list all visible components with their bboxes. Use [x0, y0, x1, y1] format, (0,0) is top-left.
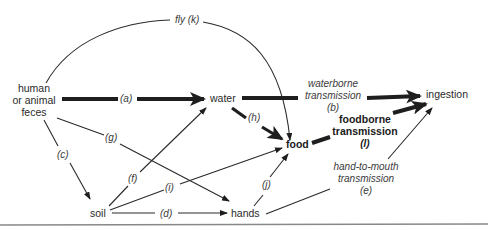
edge-l-left	[312, 137, 330, 143]
edge-k-arc-left	[46, 20, 170, 83]
edge-j-bottom	[254, 195, 263, 206]
edge-c-bottom	[70, 163, 90, 199]
edge-b-label-line1: waterborne	[308, 78, 358, 89]
edge-e-bottom	[266, 189, 330, 214]
edge-a-label: (a)	[120, 93, 132, 104]
node-feces-line3: feces	[21, 106, 46, 118]
edge-l-label-line2: transmission	[332, 125, 397, 137]
edge-f-bottom	[109, 186, 128, 206]
edge-e-label-line2: transmission	[338, 173, 395, 184]
bottom-rule	[0, 224, 488, 225]
edge-f-label: (f)	[128, 173, 137, 184]
node-food: food	[286, 138, 309, 150]
node-ingestion: ingestion	[426, 88, 468, 100]
edge-k-label: fly (k)	[175, 14, 199, 25]
edge-c-top	[44, 120, 58, 146]
node-feces-line2: or animal	[12, 94, 55, 106]
edge-e-label: (e)	[360, 185, 372, 196]
edge-l-right	[393, 104, 426, 113]
edge-h-bottom	[262, 127, 282, 139]
edge-b-label-line2: transmission	[305, 90, 362, 101]
edge-k-arc-right	[203, 22, 290, 140]
edge-c-label: (c)	[57, 149, 69, 160]
node-feces-line1: human	[18, 82, 50, 94]
edge-h-top	[232, 108, 246, 118]
edge-l-label-line1: foodborne	[339, 113, 391, 125]
edge-i-left	[110, 190, 164, 210]
edge-h-label: (h)	[248, 112, 260, 123]
edge-i-label: (i)	[165, 182, 174, 193]
edge-b-label: (b)	[327, 102, 339, 113]
node-soil: soil	[90, 207, 106, 219]
edge-b-right	[367, 96, 420, 98]
node-hands: hands	[231, 207, 260, 219]
edge-g-label: (g)	[105, 132, 117, 143]
edge-l-label: (l)	[360, 138, 370, 149]
edge-j-top	[270, 154, 288, 177]
edge-d-label: (d)	[160, 208, 172, 219]
edge-e-label-line1: hand-to-mouth	[333, 161, 398, 172]
node-water: water	[209, 92, 236, 104]
edge-g-top	[57, 118, 104, 135]
edge-f-top	[140, 108, 206, 172]
edge-j-label: (j)	[262, 179, 271, 190]
transmission-diagram: fly (k) human or animal feces (a) water …	[0, 0, 488, 230]
